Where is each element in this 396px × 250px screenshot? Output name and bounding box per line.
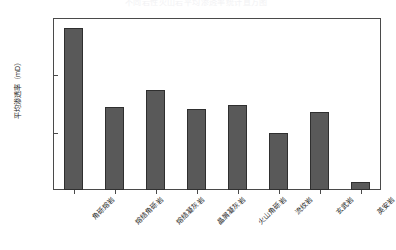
bar: [269, 133, 288, 190]
bar: [187, 109, 206, 190]
x-tick-mark: [74, 190, 75, 194]
chart-title: 不同岩性火山岩平均渗透率统计直方图: [0, 0, 393, 8]
bar: [146, 90, 165, 190]
x-tick-label: 熔结凝灰岩: [173, 194, 206, 227]
bar: [228, 105, 247, 190]
x-tick-mark: [197, 190, 198, 194]
bar: [310, 112, 329, 190]
x-tick-mark: [361, 190, 362, 194]
x-tick-label: 角砾熔岩: [89, 194, 116, 221]
x-tick-label: 流纹岩: [292, 194, 314, 216]
x-tick-mark: [156, 190, 157, 194]
bar: [64, 28, 83, 190]
x-tick-mark: [279, 190, 280, 194]
x-tick-mark: [115, 190, 116, 194]
x-axis-ticks: 角砾熔岩熔结角砾岩熔结凝灰岩晶屑凝灰岩火山角砾岩流纹岩玄武岩英安岩: [53, 190, 381, 250]
x-tick-label: 晶屑凝灰岩: [214, 194, 247, 227]
x-tick-label: 火山角砾岩: [255, 194, 288, 227]
x-tick-mark: [320, 190, 321, 194]
x-tick-label: 玄武岩: [333, 194, 355, 216]
bar: [351, 182, 370, 190]
x-tick-label: 熔结角砾岩: [132, 194, 165, 227]
y-axis-title: 平均渗透率（mD）: [12, 37, 22, 141]
bar-series: [53, 18, 381, 190]
x-tick-label: 英安岩: [374, 194, 396, 216]
bar: [105, 107, 124, 190]
x-tick-mark: [238, 190, 239, 194]
